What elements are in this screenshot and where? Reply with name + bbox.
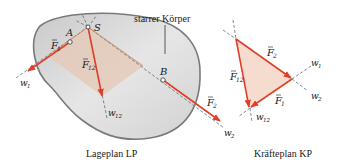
rigid-body-label: starrer Körper <box>134 13 191 24</box>
caption-kraefteplan: Kräfteplan KP <box>254 148 312 159</box>
label-w1: w 1 <box>20 78 31 89</box>
label-s: S <box>94 22 101 33</box>
svg-text:1: 1 <box>281 100 285 107</box>
svg-text:12: 12 <box>263 117 270 123</box>
svg-text:2: 2 <box>212 102 217 109</box>
kp-label-f2: F 2 <box>266 47 277 59</box>
kp-label-f12: F 12 <box>229 71 244 83</box>
svg-text:12: 12 <box>115 113 122 119</box>
caption-lageplan: Lageplan LP <box>86 148 138 159</box>
svg-text:1: 1 <box>57 45 61 52</box>
svg-text:2: 2 <box>317 96 322 102</box>
svg-text:1: 1 <box>27 83 31 89</box>
svg-text:1: 1 <box>318 63 322 69</box>
svg-text:2: 2 <box>230 133 235 139</box>
svg-text:12: 12 <box>236 76 244 83</box>
label-f2: F 2 <box>206 97 217 109</box>
point-s <box>86 25 90 29</box>
label-w2: w 2 <box>224 128 235 139</box>
point-a <box>68 40 72 44</box>
label-b: B <box>159 66 167 77</box>
label-a: A <box>65 27 73 38</box>
kp-label-w1: w 1 <box>311 58 322 69</box>
svg-text:2: 2 <box>272 52 277 59</box>
kp-label-w12: w 12 <box>256 112 270 123</box>
kp-label-w2: w 2 <box>311 91 322 102</box>
kp-label-f1: F 1 <box>274 95 285 107</box>
force-diagram: A S B starrer Körper F 1 F 12 F 2 w 1 w … <box>0 0 338 166</box>
point-b <box>161 78 165 82</box>
svg-text:12: 12 <box>88 64 96 71</box>
